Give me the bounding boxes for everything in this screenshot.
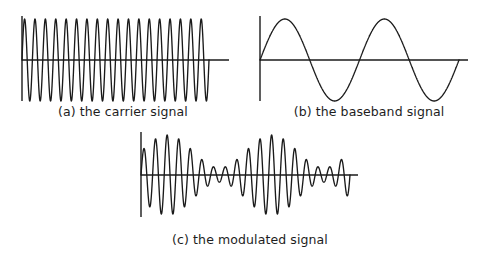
panel-carrier-signal: (a) the carrier signal [0, 0, 246, 130]
caption-carrier-signal: (a) the carrier signal [0, 104, 246, 120]
panel-modulated-signal: (c) the modulated signal [120, 128, 380, 259]
panel-baseband-signal: (b) the baseband signal [246, 0, 492, 130]
caption-baseband-signal: (b) the baseband signal [246, 104, 492, 120]
caption-modulated-signal: (c) the modulated signal [120, 232, 380, 248]
signal-modulation-figure: (a) the carrier signal (b) the baseband … [0, 0, 492, 259]
